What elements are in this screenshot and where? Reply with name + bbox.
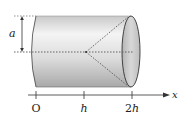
x-axis-label: x	[172, 89, 178, 100]
radius-label: a	[9, 27, 16, 40]
cylinder-end-cap	[122, 16, 140, 87]
radius-arrow-top-icon	[20, 16, 24, 20]
tick-label-h: h	[80, 102, 87, 115]
tick-label-2h: 2h	[125, 102, 139, 115]
tick-label-2h-var: h	[132, 102, 139, 115]
x-axis-arrow-icon	[163, 93, 170, 98]
origin-label: O	[31, 102, 40, 115]
tick-label-2h-text: 2	[125, 102, 132, 115]
cylinder-diagram: a x O h 2h	[0, 0, 186, 120]
cone-vertex	[85, 51, 87, 53]
radius-arrow-bottom-icon	[20, 48, 24, 52]
